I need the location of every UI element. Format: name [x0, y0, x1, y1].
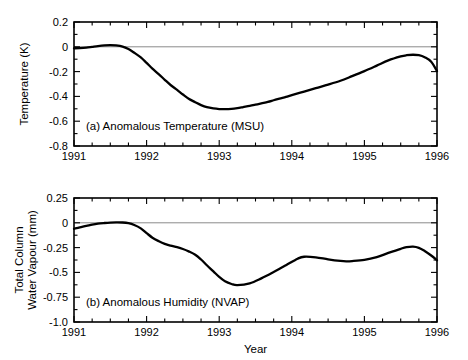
y-tick-label: 0 [62, 217, 68, 229]
x-tick-label: 1995 [352, 150, 376, 162]
y-axis-title-line-2: Water Vapour (mm) [26, 210, 38, 310]
x-tick-label: 1993 [207, 326, 231, 338]
y-tick-label: -0.25 [43, 242, 68, 254]
y-tick-label: -0.2 [49, 66, 68, 78]
panel-caption: (a) Anomalous Temperature (MSU) [86, 120, 264, 132]
x-axis-title: Year [244, 343, 267, 355]
x-tick-label: 1996 [425, 150, 449, 162]
y-axis-title-line-1: Total Column [13, 226, 25, 293]
y-tick-label: 0.25 [47, 192, 68, 204]
x-tick-label: 1994 [280, 150, 304, 162]
y-tick-label: 0 [62, 41, 68, 53]
panel-caption: (b) Anomalous Humidity (NVAP) [86, 296, 250, 308]
y-tick-label: -0.4 [49, 90, 68, 102]
figure-container: 0.20-0.2-0.4-0.6-0.819911992199319941995… [0, 0, 468, 360]
x-tick-label: 1993 [207, 150, 231, 162]
y-tick-label: -0.75 [43, 291, 68, 303]
x-tick-label: 1995 [352, 326, 376, 338]
x-tick-label: 1991 [62, 326, 86, 338]
x-tick-label: 1996 [425, 326, 449, 338]
y-tick-label: -0.6 [49, 115, 68, 127]
y-tick-label: 0.2 [53, 16, 68, 28]
x-tick-label: 1992 [134, 326, 158, 338]
two-panel-line-chart: 0.20-0.2-0.4-0.6-0.819911992199319941995… [0, 0, 468, 360]
x-tick-label: 1992 [134, 150, 158, 162]
y-tick-label: -0.5 [49, 266, 68, 278]
y-axis-title-line-1: Temperature (K) [18, 42, 30, 125]
x-tick-label: 1991 [62, 150, 86, 162]
x-tick-label: 1994 [280, 326, 304, 338]
